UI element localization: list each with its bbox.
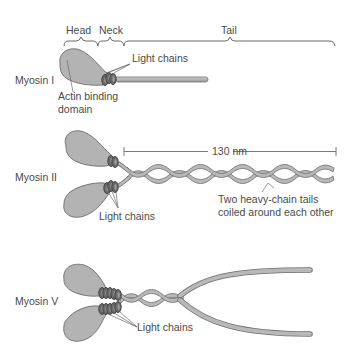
- myosin2-light-chains-label: Light chains: [99, 210, 155, 222]
- myosin1-name: Myosin I: [15, 74, 54, 86]
- myosin-diagram: Head Neck Tail Myosin I Light chains Act…: [0, 0, 350, 357]
- myosin5-name: Myosin V: [15, 295, 58, 307]
- myosin1-light-chains-label: Light chains: [132, 52, 188, 64]
- actin-binding-label-line1: Actin binding: [58, 90, 118, 102]
- head-bracket: [64, 37, 98, 46]
- tails-label-line1: Two heavy-chain tails: [218, 193, 318, 205]
- myosin5-light-chains-label: Light chains: [137, 321, 193, 333]
- tail-bracket: [124, 37, 335, 46]
- length-label: 130 nm: [212, 145, 247, 157]
- neck-label: Neck: [99, 24, 123, 36]
- myosin2-name: Myosin II: [15, 171, 57, 183]
- region-brackets: [64, 37, 335, 46]
- actin-binding-label-line2: domain: [58, 103, 92, 115]
- tails-label-line2: coiled around each other: [218, 206, 334, 218]
- tail-label: Tail: [221, 24, 237, 36]
- head-label: Head: [66, 24, 91, 36]
- neck-bracket: [98, 37, 124, 46]
